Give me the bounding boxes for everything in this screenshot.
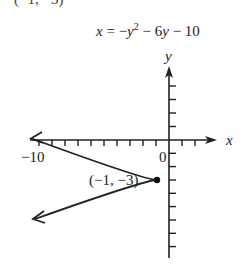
y-axis-label: y [163,48,172,64]
vertex-label: (−1, −3) [89,172,138,189]
vertex-point [154,177,160,183]
x-axis-label: x [225,132,233,148]
parabola-graph: −10 0 (−1, −3) x y [0,0,252,265]
tick-label-zero: 0 [159,149,167,165]
tick-label-neg10: −10 [21,149,44,165]
x-ticks [39,140,195,146]
y-ticks [169,86,176,247]
